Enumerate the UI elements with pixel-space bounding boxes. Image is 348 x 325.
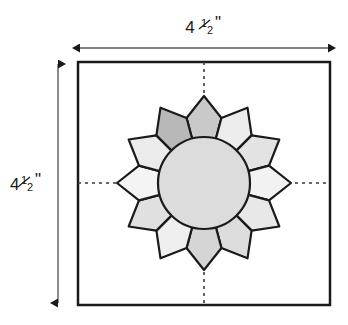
width-label-whole: 4 [185,18,194,37]
width-label-unit: " [215,13,221,32]
rosette-center-circle [158,137,250,229]
width-dimension-label: 4 1 2 " [185,13,221,37]
height-label-whole: 4 [10,175,19,194]
height-dimension-label: 4 1 2 " [10,170,41,194]
height-label-unit: " [35,170,41,189]
diagram-canvas: 4 1 2 " 4 1 2 " [0,0,348,325]
quilt-block-svg: 4 1 2 " 4 1 2 " [0,0,348,325]
height-label-denominator: 2 [27,181,33,193]
width-label-denominator: 2 [207,24,213,36]
